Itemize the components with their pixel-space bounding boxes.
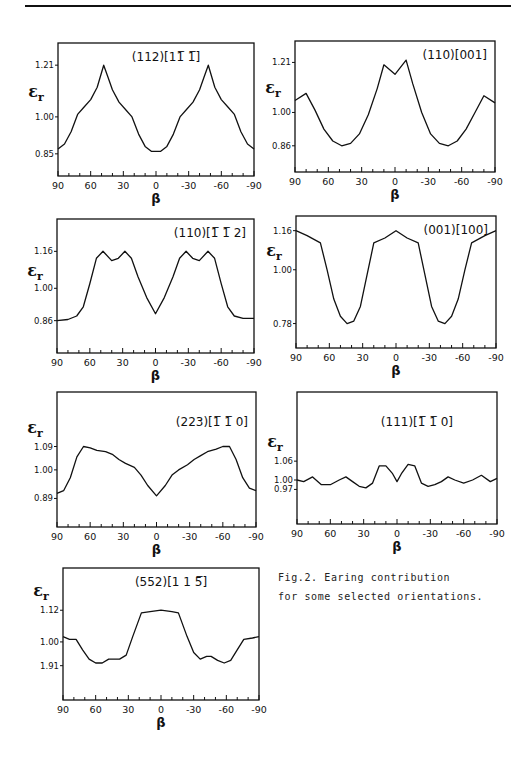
- x-axis-label: β: [156, 715, 165, 730]
- figure-caption: Fig.2. Earing contribution for some sele…: [278, 568, 483, 606]
- x-tick-label: 90: [57, 704, 69, 715]
- y-axis-label: εr: [33, 581, 49, 603]
- x-tick-label: -90: [251, 704, 267, 715]
- chart-title: (552)[1 1 5̅]: [135, 575, 207, 589]
- x-tick-label: -60: [219, 704, 235, 715]
- x-tick-label: 60: [90, 704, 102, 715]
- x-tick-label: -30: [186, 704, 202, 715]
- caption-line-1: Fig.2. Earing contribution: [278, 568, 483, 587]
- x-tick-label: 30: [122, 704, 134, 715]
- chart-panel-7: 9060300-30-60-90β1.121.001.91εr(552)[1 1…: [0, 0, 529, 768]
- y-tick-label: 1.00: [40, 637, 59, 647]
- earing-curve: [63, 610, 259, 663]
- y-tick-label: 1.12: [40, 605, 59, 615]
- x-tick-label: 0: [158, 704, 164, 715]
- y-tick-label: 1.91: [40, 661, 59, 671]
- caption-line-2: for some selected orientations.: [278, 587, 483, 606]
